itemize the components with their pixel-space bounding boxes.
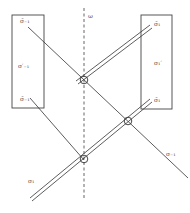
double-line-upper-a <box>76 25 150 81</box>
right-box-middle-label: σ₁′ <box>154 60 162 66</box>
omega-label: ω <box>88 13 93 19</box>
double-line-lower-a <box>30 99 150 198</box>
right-box-top-label: σ̄₁ <box>154 21 161 27</box>
single-line-lower <box>30 98 84 160</box>
bottom-right-label: σ₋₁ <box>166 151 176 157</box>
left-box-bottom-label: σ̄₋₁ <box>20 96 30 102</box>
right-box-bottom-label: σ̄₁ <box>154 97 161 103</box>
single-line-upper <box>28 27 188 178</box>
double-line-lower-b <box>32 102 152 201</box>
left-box-top-label: σ̄₋₁ <box>20 18 30 24</box>
bottom-left-label: σ₁ <box>28 178 35 184</box>
left-box-middle-label: σ′₋₁ <box>18 63 29 69</box>
